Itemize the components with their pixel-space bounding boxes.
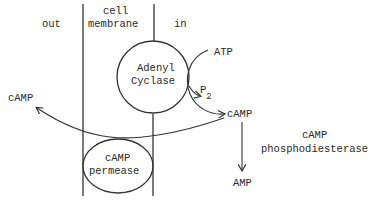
permease-label-line1: cAMP bbox=[105, 152, 130, 164]
permease-label-line2: permease bbox=[89, 165, 139, 177]
membrane-label-line1: cell bbox=[103, 5, 128, 17]
amp-label: AMP bbox=[233, 177, 252, 189]
phosphodiesterase-label-line2: phosphodiesterase bbox=[261, 143, 368, 155]
camp-pathway-diagram: out cell membrane in Adenyl Cyclase cAMP… bbox=[0, 0, 381, 202]
atp-to-camp-arrow bbox=[187, 50, 224, 114]
pyrophosphate-label: P2 bbox=[200, 84, 212, 102]
camp-efflux-arrow bbox=[37, 108, 224, 138]
adenyl-cyclase-label-line2: Cyclase bbox=[131, 75, 175, 87]
membrane-label-line2: membrane bbox=[88, 18, 138, 30]
camp-outside-label: cAMP bbox=[8, 92, 33, 104]
phosphodiesterase-label-line1: cAMP bbox=[302, 129, 327, 141]
adenyl-cyclase-label-line1: Adenyl bbox=[137, 62, 175, 74]
camp-inside-label: cAMP bbox=[227, 108, 252, 120]
region-in-label: in bbox=[174, 18, 187, 30]
atp-label: ATP bbox=[214, 46, 233, 58]
region-out-label: out bbox=[42, 18, 61, 30]
